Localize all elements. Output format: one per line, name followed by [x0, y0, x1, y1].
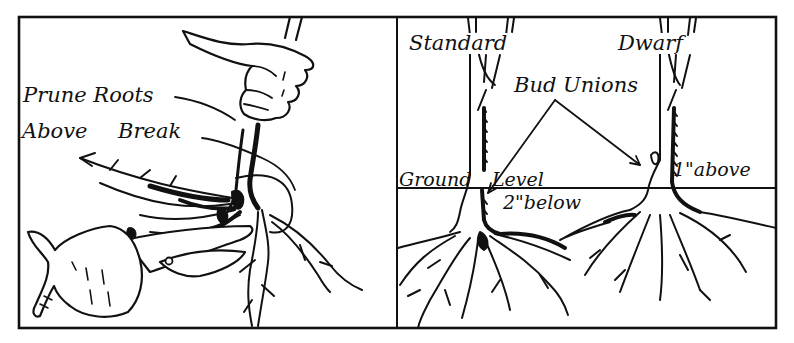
hand-holding-shears: [28, 226, 142, 317]
hand-holding-stem: [183, 17, 313, 120]
label-break: Break: [118, 121, 181, 142]
label-level: Level: [492, 170, 544, 189]
left-panel-drawing: [28, 17, 362, 326]
pruning-shears: [125, 226, 252, 276]
label-prune-roots: Prune Roots: [23, 85, 154, 106]
label-above: Above: [22, 121, 88, 142]
label-bud-unions: Bud Unions: [514, 75, 638, 96]
label-one-inch-above: 1"above: [673, 160, 751, 179]
label-two-inches-below: 2"below: [503, 193, 581, 212]
label-standard: Standard: [409, 33, 507, 54]
label-dwarf: Dwarf: [618, 33, 683, 54]
label-ground: Ground: [399, 170, 471, 189]
